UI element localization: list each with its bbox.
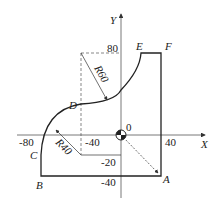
point-a-label: A bbox=[162, 173, 170, 185]
tick-y-neg40: -40 bbox=[101, 176, 116, 188]
origin-icon bbox=[116, 130, 126, 140]
tick-y-80: 80 bbox=[107, 42, 119, 54]
x-axis-label: X bbox=[200, 138, 209, 150]
tick-x-neg80: -80 bbox=[19, 136, 34, 148]
r40-label: R40 bbox=[53, 135, 75, 157]
origin-label: 0 bbox=[126, 121, 132, 133]
y-axis-label: Y bbox=[110, 14, 118, 26]
point-c-label: C bbox=[30, 149, 38, 161]
origin-to-a-leader bbox=[121, 135, 158, 173]
point-e-label: E bbox=[135, 40, 143, 52]
point-b-label: B bbox=[36, 179, 43, 191]
tick-y-neg20: -20 bbox=[101, 156, 116, 168]
diagram-canvas: Y X 0 80 -20 -40 -80 -40 40 E F D C B A … bbox=[0, 0, 220, 211]
point-f-label: F bbox=[164, 40, 172, 52]
tick-x-40: 40 bbox=[165, 136, 177, 148]
r60-label: R60 bbox=[92, 62, 112, 85]
cnc-profile-diagram: Y X 0 80 -20 -40 -80 -40 40 E F D C B A … bbox=[0, 0, 220, 211]
point-d-label: D bbox=[68, 99, 77, 111]
tick-x-neg40: -40 bbox=[85, 136, 100, 148]
